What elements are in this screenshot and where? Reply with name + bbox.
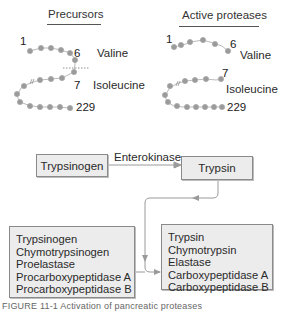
- active-enzyme-item: Carboxypeptidase A: [168, 269, 272, 282]
- active-enzyme-list-box: Trypsin Chymotrypsin Elastase Carboxypep…: [161, 224, 273, 290]
- active-enzyme-item: Elastase: [168, 256, 272, 269]
- trypsin-box: Trypsin: [181, 156, 253, 180]
- active-residue-6: 6: [230, 38, 236, 50]
- enterokinase-label: Enterokinase: [114, 151, 181, 163]
- active-enzyme-item: Trypsin: [168, 231, 272, 244]
- active-residue-1: 1: [166, 33, 172, 45]
- precursor-valine-label: Valine: [97, 47, 128, 59]
- active-valine-label: Valine: [240, 49, 271, 61]
- zymogen-list-box: Trypsinogen Chymotrypsinogen Proelastase…: [9, 226, 135, 298]
- zymogen-item: Trypsinogen: [16, 233, 134, 246]
- precursor-residue-6: 6: [74, 47, 80, 59]
- trypsinogen-box: Trypsinogen: [36, 154, 108, 177]
- active-enzyme-item: Chymotrypsin: [168, 244, 272, 257]
- precursor-residue-1: 1: [20, 35, 26, 47]
- zymogen-item: Proelastase: [16, 258, 134, 271]
- precursors-underline: [47, 24, 101, 25]
- zymogen-item: Procarboxypeptidase B: [16, 283, 134, 296]
- trypsin-label: Trypsin: [198, 162, 235, 174]
- active-chain: [162, 37, 230, 109]
- precursor-chain: [14, 45, 77, 110]
- zymogen-item: Chymotrypsinogen: [16, 246, 134, 259]
- trypsinogen-label: Trypsinogen: [41, 160, 104, 172]
- figure-caption: FIGURE 11-1 Activation of pancreatic pro…: [2, 301, 202, 311]
- active-residue-7: 7: [222, 67, 228, 79]
- active-residue-229: 229: [227, 101, 246, 113]
- precursor-isoleucine-label: Isoleucine: [93, 79, 145, 91]
- precursor-residue-229: 229: [76, 101, 95, 113]
- active-isoleucine-label: Isoleucine: [226, 83, 278, 95]
- zymogen-item: Procarboxypeptidase A: [16, 271, 134, 284]
- precursors-title: Precursors: [48, 8, 104, 20]
- active-proteases-underline: [179, 26, 259, 27]
- precursor-residue-7: 7: [74, 79, 80, 91]
- active-enzyme-item: Carboxypeptidase B: [168, 281, 272, 294]
- chain-break-icon: [30, 79, 34, 84]
- active-proteases-title: Active proteases: [182, 9, 267, 21]
